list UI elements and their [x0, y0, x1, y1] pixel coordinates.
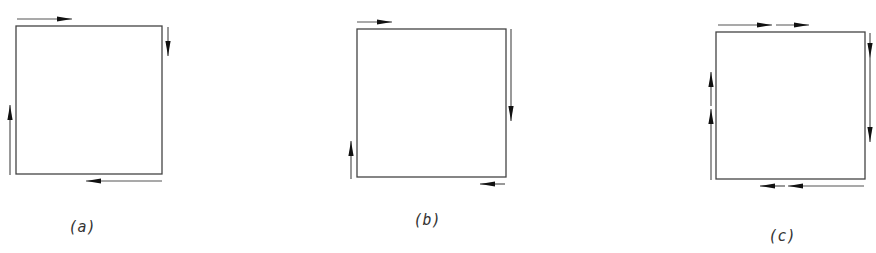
arrow-left-up-icon: [348, 141, 353, 179]
panel-a: (a): [7, 16, 170, 236]
circulation-diagram-figure: (a)(b)(c): [0, 0, 876, 253]
arrow-right-down-icon: [867, 58, 872, 142]
arrow-right-down-icon: [508, 29, 513, 121]
panels-root: (a)(b)(c): [7, 16, 872, 245]
arrowhead-icon: [708, 72, 713, 87]
square-boundary: [716, 32, 865, 179]
arrow-bottom-left-icon: [480, 181, 505, 186]
arrowhead-icon: [760, 183, 775, 188]
arrowhead-icon: [57, 16, 72, 21]
arrowhead-icon: [348, 141, 353, 156]
arrowhead-icon: [788, 183, 803, 188]
arrow-right-down-icon: [165, 27, 170, 56]
arrow-bottom-left-icon: [86, 178, 162, 183]
arrowhead-icon: [377, 19, 392, 24]
panel-c: (c): [708, 22, 872, 245]
square-boundary: [16, 26, 162, 174]
arrowhead-icon: [708, 109, 713, 124]
arrowhead-icon: [7, 105, 12, 120]
arrow-top-right-icon: [776, 22, 809, 27]
arrowhead-icon: [165, 41, 170, 56]
panel-b: (b): [348, 19, 513, 229]
arrowhead-icon: [867, 127, 872, 142]
arrow-right-down-icon: [867, 33, 872, 58]
arrow-bottom-left-icon: [760, 183, 785, 188]
arrowhead-icon: [508, 106, 513, 121]
arrow-top-right-icon: [357, 19, 392, 24]
arrow-left-up-icon: [708, 109, 713, 180]
arrow-top-right-icon: [718, 22, 772, 27]
arrow-left-up-icon: [708, 72, 713, 106]
square-boundary: [357, 29, 506, 177]
arrow-bottom-left-icon: [788, 183, 864, 188]
arrowhead-icon: [794, 22, 809, 27]
panel-label-a: (a): [68, 218, 95, 236]
arrow-top-right-icon: [17, 16, 72, 21]
arrowhead-icon: [757, 22, 772, 27]
panel-label-c: (c): [768, 227, 795, 245]
arrowhead-icon: [480, 181, 495, 186]
arrow-left-up-icon: [7, 105, 12, 175]
arrowhead-icon: [867, 43, 872, 58]
panel-label-b: (b): [413, 211, 440, 229]
arrowhead-icon: [86, 178, 101, 183]
